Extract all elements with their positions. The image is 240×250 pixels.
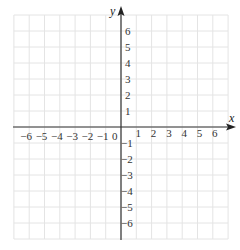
y-tick-label: 4 (125, 57, 131, 69)
x-axis-label: x (228, 111, 235, 125)
origin-label: 0 (112, 130, 118, 142)
y-tick-label: −5 (121, 201, 133, 213)
x-tick-label: −5 (36, 130, 48, 142)
x-tick-label: −2 (82, 130, 94, 142)
y-axis-label: y (109, 4, 116, 18)
x-tick-label: 1 (136, 127, 142, 139)
x-tick-labels: −6−5−4−3−2−1123456 (20, 127, 218, 142)
y-tick-label: −4 (121, 185, 133, 197)
x-tick-label: 3 (166, 127, 172, 139)
y-tick-label: −2 (121, 153, 133, 165)
y-tick-label: −6 (121, 217, 133, 229)
x-tick-label: 5 (197, 127, 203, 139)
x-tick-label: 2 (151, 127, 157, 139)
x-tick-label: 6 (212, 127, 218, 139)
x-tick-label: −6 (20, 130, 32, 142)
x-tick-label: −3 (66, 130, 78, 142)
y-tick-label: 5 (125, 41, 131, 53)
y-tick-label: 3 (125, 73, 131, 85)
coordinate-plane: x y 0 −6−5−4−3−2−1123456 123456−1−2−3−4−… (0, 0, 240, 250)
x-tick-label: −1 (97, 130, 109, 142)
y-tick-label: 1 (125, 105, 131, 117)
y-tick-label: −3 (121, 169, 133, 181)
y-tick-label: −1 (121, 137, 133, 149)
x-tick-label: 4 (181, 127, 187, 139)
x-tick-label: −4 (51, 130, 63, 142)
y-tick-label: 6 (125, 25, 131, 37)
y-tick-label: 2 (125, 89, 131, 101)
